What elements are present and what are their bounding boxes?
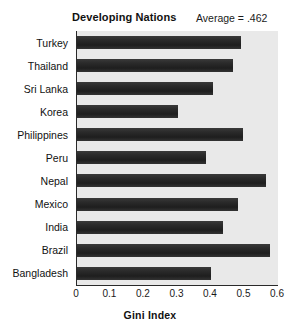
x-tick-label: 0.4 xyxy=(203,288,217,299)
bar xyxy=(77,244,270,257)
bar-row xyxy=(77,100,278,123)
bar xyxy=(77,174,266,187)
bar-row xyxy=(77,216,278,239)
x-tick-label: 0.5 xyxy=(237,288,251,299)
bar-row xyxy=(77,146,278,169)
x-axis-title: Gini Index xyxy=(0,309,300,321)
plot-area xyxy=(76,31,278,286)
y-axis-label: Turkey xyxy=(0,31,72,54)
x-tick-label: 0.6 xyxy=(270,288,284,299)
x-tick-label: 0 xyxy=(73,288,79,299)
bar-row xyxy=(77,239,278,262)
bar xyxy=(77,128,243,141)
bar xyxy=(77,82,213,95)
chart-title: Developing Nations xyxy=(72,11,176,23)
bar-row xyxy=(77,77,278,100)
bar-row xyxy=(77,54,278,77)
bar xyxy=(77,221,223,234)
bar xyxy=(77,151,206,164)
y-axis-label: Korea xyxy=(0,100,72,123)
y-axis-label: Mexico xyxy=(0,193,72,216)
bar-row xyxy=(77,193,278,216)
y-axis-category-labels: TurkeyThailandSri LankaKoreaPhilippinesP… xyxy=(0,31,72,285)
bar xyxy=(77,36,241,49)
bar xyxy=(77,198,238,211)
y-axis-label: Brazil xyxy=(0,239,72,262)
x-tick-label: 0.3 xyxy=(170,288,184,299)
y-axis-label: Peru xyxy=(0,146,72,169)
y-axis-label: Thailand xyxy=(0,54,72,77)
y-axis-label: India xyxy=(0,216,72,239)
y-axis-label: Bangladesh xyxy=(0,262,72,285)
y-axis-label: Philippines xyxy=(0,123,72,146)
bar-row xyxy=(77,31,278,54)
x-tick-label: 0.1 xyxy=(103,288,117,299)
y-axis-label: Nepal xyxy=(0,169,72,192)
y-axis-label: Sri Lanka xyxy=(0,77,72,100)
bar xyxy=(77,105,178,118)
bars-layer xyxy=(77,31,278,285)
bar-chart: Developing Nations Average = .462 Turkey… xyxy=(0,0,300,333)
bar-row xyxy=(77,262,278,285)
bar xyxy=(77,267,211,280)
bar-row xyxy=(77,169,278,192)
average-annotation: Average = .462 xyxy=(196,12,267,24)
chart-header: Developing Nations Average = .462 xyxy=(0,11,300,27)
x-axis-tick-labels: 00.10.20.30.40.50.6 xyxy=(76,288,277,302)
x-tick-label: 0.2 xyxy=(136,288,150,299)
bar-row xyxy=(77,123,278,146)
bar xyxy=(77,59,233,72)
